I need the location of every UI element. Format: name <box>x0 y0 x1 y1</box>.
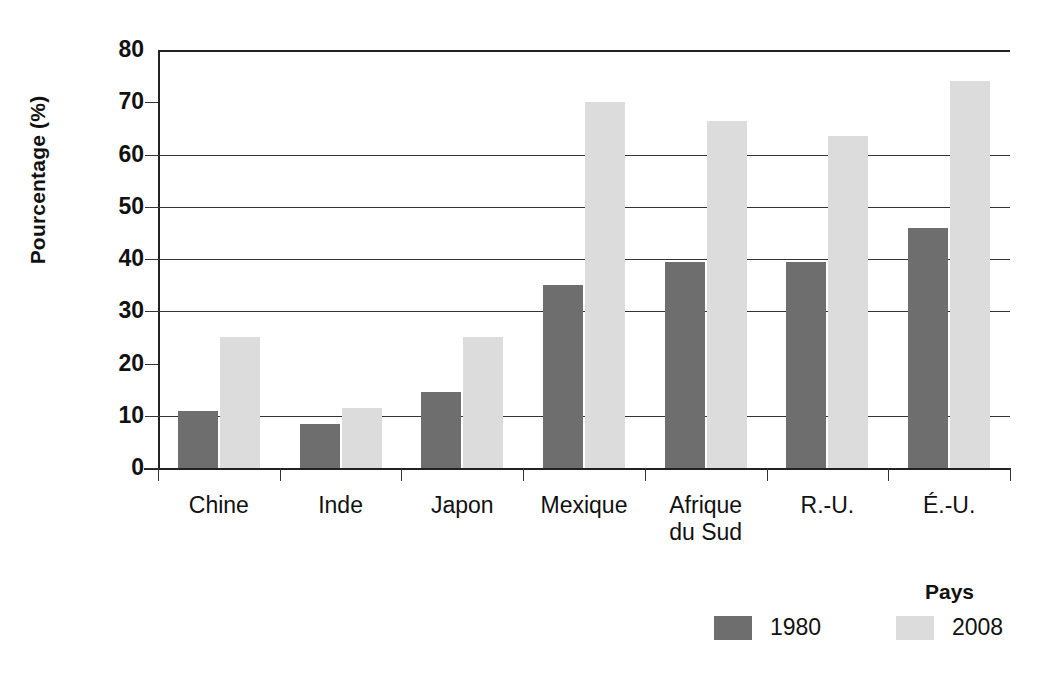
legend-label-1980: 1980 <box>770 612 821 642</box>
y-tick-label: 30 <box>84 299 144 322</box>
bar-chine-2008 <box>220 337 260 468</box>
x-tickmark <box>158 468 159 481</box>
bar-inde-1980 <box>300 424 340 468</box>
legend-swatch-1980 <box>714 616 752 640</box>
bar-group <box>665 50 747 468</box>
legend-label-2008: 2008 <box>952 612 1003 642</box>
bar-r.-u.-2008 <box>828 136 868 468</box>
y-axis-title: Pourcentage (%) <box>26 70 50 290</box>
x-tickmark <box>401 468 402 481</box>
legend-title: Pays <box>925 580 974 604</box>
y-tickmark <box>145 311 158 312</box>
legend: Pays 1980 2008 <box>700 580 1030 660</box>
x-tick-label: Afrique du Sud <box>645 492 767 546</box>
y-tick-label: 40 <box>84 247 144 270</box>
x-axis-tickmarks <box>158 468 1010 482</box>
bar-é.-u.-2008 <box>950 81 990 468</box>
y-tick-label: 70 <box>84 90 144 113</box>
y-tick-label: 60 <box>84 143 144 166</box>
x-tickmark <box>645 468 646 481</box>
bar-japon-1980 <box>421 392 461 468</box>
y-tickmark <box>145 207 158 208</box>
legend-swatch-2008 <box>896 616 934 640</box>
y-tick-label: 80 <box>84 38 144 61</box>
x-tick-label: R.-U. <box>767 492 889 519</box>
x-tick-label: Japon <box>401 492 523 519</box>
x-tick-label: É.-U. <box>888 492 1010 519</box>
bar-afrique-du-sud-2008 <box>707 121 747 468</box>
x-tickmark <box>523 468 524 481</box>
y-tickmark <box>145 416 158 417</box>
bar-group <box>178 50 260 468</box>
bar-japon-2008 <box>463 337 503 468</box>
y-tickmark <box>145 468 158 469</box>
x-axis-tick-labels: ChineIndeJaponMexiqueAfrique du SudR.-U.… <box>158 492 1010 562</box>
bar-group <box>543 50 625 468</box>
x-tick-label: Mexique <box>523 492 645 519</box>
y-axis-tick-labels: 01020304050607080 <box>82 50 144 468</box>
y-tick-label: 50 <box>84 195 144 218</box>
bar-chart-figure: Pourcentage (%) 01020304050607080 ChineI… <box>0 0 1056 696</box>
x-tickmark <box>1010 468 1011 481</box>
x-tickmark <box>767 468 768 481</box>
y-tick-label: 0 <box>84 456 144 479</box>
bar-group <box>908 50 990 468</box>
bar-mexique-2008 <box>585 102 625 468</box>
x-tickmark <box>888 468 889 481</box>
bar-group <box>300 50 382 468</box>
bar-group <box>786 50 868 468</box>
y-tick-label: 10 <box>84 404 144 427</box>
x-tickmark <box>280 468 281 481</box>
plot-frame-left-axis <box>158 50 160 470</box>
y-tickmark <box>145 259 158 260</box>
x-tick-label: Inde <box>280 492 402 519</box>
y-tickmark <box>145 155 158 156</box>
bar-chine-1980 <box>178 411 218 468</box>
bar-afrique-du-sud-1980 <box>665 262 705 468</box>
plot-area <box>158 50 1010 468</box>
y-tickmark <box>145 102 158 103</box>
bar-inde-2008 <box>342 408 382 468</box>
x-tick-label: Chine <box>158 492 280 519</box>
bar-é.-u.-1980 <box>908 228 948 468</box>
y-tick-label: 20 <box>84 352 144 375</box>
bar-mexique-1980 <box>543 285 583 468</box>
y-tickmark <box>145 364 158 365</box>
bar-group <box>421 50 503 468</box>
bar-r.-u.-1980 <box>786 262 826 468</box>
